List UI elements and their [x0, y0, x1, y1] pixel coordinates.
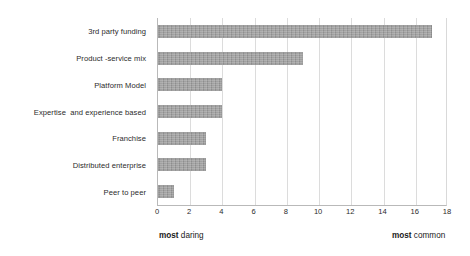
x-axis-tick-label: 8	[284, 207, 288, 216]
x-axis-tick-label: 0	[155, 207, 159, 216]
category-label-row: Peer to peer	[0, 179, 152, 206]
annotation-most-common: most common	[392, 231, 445, 240]
category-label-row: Platform Model	[0, 72, 152, 99]
bar	[158, 78, 222, 91]
bar	[158, 52, 303, 65]
category-label-row: Distributed enterprise	[0, 152, 152, 179]
bar-row	[158, 152, 446, 179]
bar-row	[158, 18, 446, 45]
bar-chart: 3rd party funding Product -service mix P…	[0, 0, 470, 256]
bar	[158, 25, 432, 38]
annotation-rest: daring	[179, 231, 204, 240]
category-label: 3rd party funding	[88, 27, 146, 36]
plot-area	[157, 18, 447, 206]
category-axis-labels: 3rd party funding Product -service mix P…	[0, 18, 152, 206]
x-axis-tick-label: 14	[378, 207, 386, 216]
bar-row	[158, 71, 446, 98]
annotation-emphasis: most	[392, 231, 412, 240]
bar	[158, 185, 174, 198]
category-label: Expertise and experience based	[34, 108, 146, 117]
x-axis-tick-label: 6	[252, 207, 256, 216]
bar-row	[158, 125, 446, 152]
category-label-row: Franchise	[0, 125, 152, 152]
bar-row	[158, 98, 446, 125]
bar	[158, 105, 222, 118]
category-label: Distributed enterprise	[73, 161, 146, 170]
annotation-most-daring: most daring	[159, 231, 204, 240]
bar	[158, 132, 206, 145]
x-axis-tick-label: 16	[411, 207, 419, 216]
bar	[158, 158, 206, 171]
category-label: Product -service mix	[76, 54, 146, 63]
category-label-row: Expertise and experience based	[0, 99, 152, 126]
category-label: Franchise	[112, 134, 146, 143]
bar-row	[158, 178, 446, 205]
x-axis-tick-label: 4	[219, 207, 223, 216]
x-axis-tick-label: 12	[346, 207, 354, 216]
annotation-emphasis: most	[159, 231, 179, 240]
bar-row	[158, 45, 446, 72]
category-label-row: 3rd party funding	[0, 18, 152, 45]
bar-series	[158, 18, 446, 205]
annotation-rest: common	[412, 231, 446, 240]
x-axis-tick-label: 18	[443, 207, 451, 216]
category-label-row: Product -service mix	[0, 45, 152, 72]
category-label: Platform Model	[94, 81, 146, 90]
category-label: Peer to peer	[104, 188, 146, 197]
x-axis-tick-label: 10	[314, 207, 322, 216]
x-axis-tick-label: 2	[187, 207, 191, 216]
x-axis-ticks: 024681012141618	[157, 207, 447, 221]
